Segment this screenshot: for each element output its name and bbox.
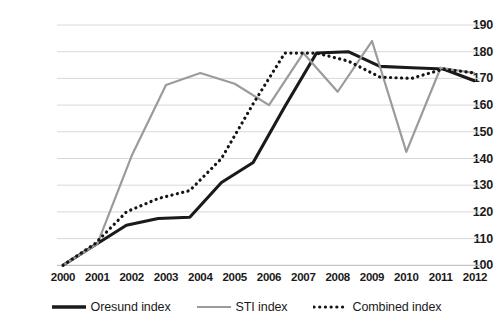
legend-label-oresund-index: Oresund index (91, 300, 171, 314)
legend-item-oresund-index: Oresund index (52, 300, 171, 314)
legend-label-combined-index: Combined index (352, 300, 441, 314)
legend-item-sti-index: STI index (197, 300, 288, 314)
legend-swatch-oresund-index (52, 302, 86, 312)
series-line-sti-index (63, 41, 475, 265)
legend-label-sti-index: STI index (236, 300, 288, 314)
legend-swatch-combined-index (313, 302, 347, 312)
legend-item-combined-index: Combined index (313, 300, 441, 314)
chart-legend: Oresund index STI index Combined index (0, 297, 493, 317)
series-line-combined-index (63, 53, 475, 265)
series-layer (63, 41, 475, 265)
x-axis-tick-2012: 2012 (452, 271, 498, 283)
legend-swatch-sti-index (197, 302, 231, 312)
